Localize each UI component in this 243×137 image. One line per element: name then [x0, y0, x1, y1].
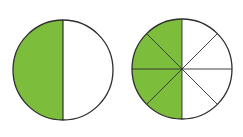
shaded-slice: [13, 20, 63, 120]
fraction-circle-eighths: [132, 19, 232, 119]
fraction-circle-halves: [13, 20, 113, 120]
unshaded-slice: [63, 20, 113, 120]
fraction-diagram: [0, 0, 243, 137]
